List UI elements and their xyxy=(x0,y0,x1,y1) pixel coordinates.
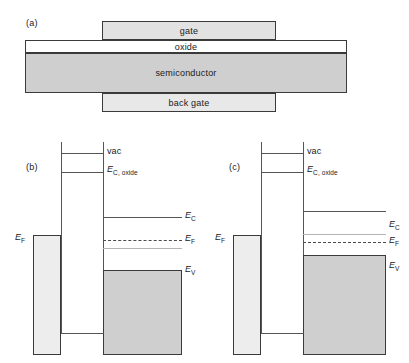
panel-c-band-diagram: (c) vac EC, oxide EC EF EF EV xyxy=(205,130,409,363)
metal-gate-block xyxy=(33,235,61,355)
oxide-conduction-band-line xyxy=(261,172,304,173)
layer-oxide: oxide xyxy=(25,40,347,53)
valence-band-label: EV xyxy=(389,260,400,272)
conduction-band-label: EC xyxy=(185,210,196,222)
layer-gate: gate xyxy=(102,21,276,40)
fermi-level-line xyxy=(103,240,182,241)
oxide-conduction-band-label: EC, oxide xyxy=(107,164,138,176)
layer-back-gate-label: back gate xyxy=(169,98,210,108)
layer-back-gate: back gate xyxy=(102,93,276,112)
valence-band-label: EV xyxy=(185,264,196,276)
oxide-conduction-band-line xyxy=(61,172,104,173)
conduction-band-line xyxy=(303,211,386,212)
panel-a-tag: (a) xyxy=(26,18,38,28)
layer-oxide-label: oxide xyxy=(175,42,198,52)
valence-band-block xyxy=(103,270,182,355)
panel-b-band-diagram: (b) vac EC, oxide EC EF EF EV xyxy=(2,130,206,363)
valence-band-block xyxy=(303,255,386,355)
metal-gate-block xyxy=(233,235,261,355)
metal-fermi-level-label: EF xyxy=(215,232,225,244)
layer-semiconductor-label: semiconductor xyxy=(155,68,216,78)
fermi-level-line xyxy=(303,242,386,243)
conduction-band-label: EC xyxy=(389,219,400,231)
vacuum-level-line xyxy=(61,153,104,154)
fermi-level-label: EF xyxy=(389,235,399,247)
panel-c-tag: (c) xyxy=(229,162,240,172)
vacuum-level-label: vac xyxy=(107,146,121,156)
intrinsic-level-line xyxy=(303,234,386,235)
fermi-level-label: EF xyxy=(185,233,195,245)
vacuum-level-label: vac xyxy=(307,146,321,156)
oxide-left-wall xyxy=(61,142,62,334)
intrinsic-level-line xyxy=(103,248,182,249)
layer-semiconductor: semiconductor xyxy=(25,53,347,93)
oxide-conduction-band-label: EC, oxide xyxy=(307,164,338,176)
metal-fermi-level-label: EF xyxy=(15,232,25,244)
bottom-connector-line xyxy=(61,333,104,334)
panel-b-tag: (b) xyxy=(26,162,38,172)
layer-gate-label: gate xyxy=(180,26,198,36)
conduction-band-line xyxy=(103,217,182,218)
vacuum-level-line xyxy=(261,153,304,154)
bottom-connector-line xyxy=(261,333,304,334)
oxide-left-wall xyxy=(261,142,262,334)
